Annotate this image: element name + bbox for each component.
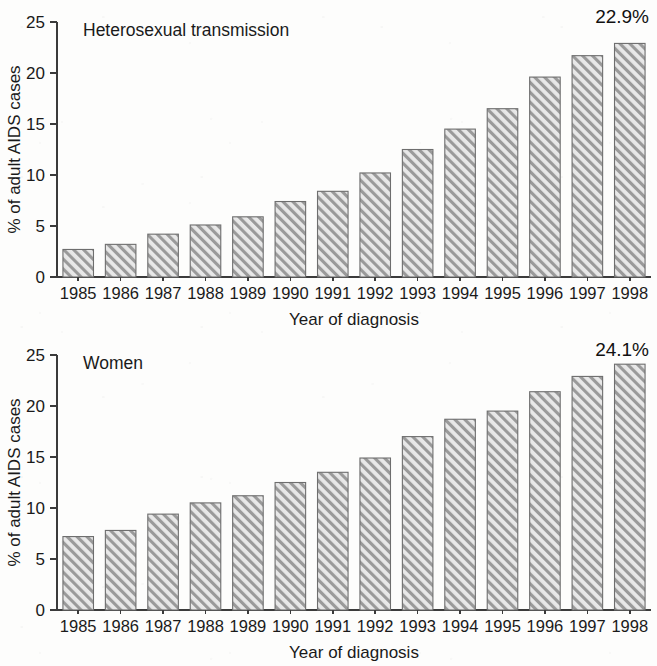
- x-tick-label: 1991: [314, 284, 351, 302]
- x-tick-label: 1997: [569, 284, 606, 302]
- bar-1985: 1985: 7.2%: [63, 537, 94, 610]
- bar-1991: 1991: 8.4%: [318, 191, 349, 277]
- y-tick-label: 0: [36, 268, 45, 287]
- bar-1988: 1988: 10.5%: [190, 503, 221, 610]
- bar-1997: 1997: 21.7%: [572, 56, 603, 277]
- x-tick-label: 1990: [272, 284, 309, 302]
- y-tick-label: 15: [26, 115, 45, 134]
- y-axis-title: % of adult AIDS cases: [5, 398, 24, 566]
- value-annotation: 24.1%: [595, 339, 649, 360]
- x-tick-label: 1995: [484, 617, 521, 635]
- y-tick-label: 10: [26, 166, 45, 185]
- bar-1997: 1997: 22.9%: [572, 376, 603, 610]
- x-tick-label: 1985: [60, 284, 97, 302]
- bars-heterosexual-transmission: 1985: 2.7%19851986: 3.2%19861987: 4.2%19…: [60, 43, 648, 302]
- bar-1985: 1985: 2.7%: [63, 249, 94, 277]
- x-tick-label: 1986: [102, 617, 139, 635]
- y-axis-title: % of adult AIDS cases: [5, 65, 24, 233]
- y-tick-label: 5: [36, 217, 45, 236]
- bar-1993: 1993: 12.5%: [402, 150, 433, 278]
- chart-panel-heterosexual-transmission: 0510152025% of adult AIDS cases1985: 2.7…: [0, 0, 657, 333]
- x-tick-label: 1985: [60, 617, 97, 635]
- x-axis-title: Year of diagnosis: [289, 310, 419, 329]
- x-tick-label: 1998: [611, 284, 648, 302]
- value-annotation: 22.9%: [595, 6, 649, 27]
- x-tick-label: 1987: [145, 284, 182, 302]
- bar-1986: 1986: 3.2%: [105, 244, 136, 277]
- bar-1989: 1989: 5.9%: [233, 217, 264, 277]
- chart-title: Women: [83, 353, 143, 373]
- chart-title: Heterosexual transmission: [83, 20, 289, 40]
- x-tick-label: 1987: [145, 617, 182, 635]
- bar-1996: 1996: 19.6%: [530, 77, 561, 277]
- y-tick-label: 15: [26, 448, 45, 467]
- bars-women: 1985: 7.2%19851986: 7.8%19861987: 9.4%19…: [60, 364, 648, 635]
- bar-1987: 1987: 4.2%: [148, 234, 179, 277]
- x-tick-label: 1993: [399, 284, 436, 302]
- bar-1998: 1998: 24.1%: [615, 364, 646, 610]
- y-tick-label: 25: [26, 13, 45, 32]
- x-tick-label: 1989: [230, 617, 267, 635]
- x-tick-label: 1992: [357, 617, 394, 635]
- y-tick-label: 5: [36, 550, 45, 569]
- x-tick-label: 1998: [611, 617, 648, 635]
- bar-1996: 1996: 21.4%: [530, 392, 561, 610]
- bar-chart-women: 0510152025% of adult AIDS cases1985: 7.2…: [0, 333, 657, 666]
- y-tick-label: 10: [26, 499, 45, 518]
- x-tick-label: 1986: [102, 284, 139, 302]
- x-tick-label: 1992: [357, 284, 394, 302]
- x-tick-label: 1994: [442, 284, 479, 302]
- bar-1993: 1993: 17%: [402, 437, 433, 610]
- x-tick-label: 1995: [484, 284, 521, 302]
- y-tick-label: 25: [26, 346, 45, 365]
- bar-1987: 1987: 9.4%: [148, 514, 179, 610]
- y-tick-label: 0: [36, 601, 45, 620]
- x-tick-label: 1993: [399, 617, 436, 635]
- x-axis-title: Year of diagnosis: [289, 643, 419, 662]
- bar-1995: 1995: 16.5%: [487, 109, 518, 277]
- bar-1992: 1992: 10.2%: [360, 173, 391, 277]
- bar-1988: 1988: 5.1%: [190, 225, 221, 277]
- bar-1991: 1991: 13.5%: [318, 472, 349, 610]
- x-tick-label: 1996: [527, 284, 564, 302]
- bar-1994: 1994: 18.7%: [445, 419, 476, 610]
- x-tick-label: 1991: [314, 617, 351, 635]
- x-tick-label: 1988: [187, 617, 224, 635]
- bar-1990: 1990: 7.4%: [275, 202, 306, 277]
- x-tick-label: 1996: [527, 617, 564, 635]
- x-tick-label: 1990: [272, 617, 309, 635]
- y-tick-label: 20: [26, 397, 45, 416]
- bar-1995: 1995: 19.5%: [487, 411, 518, 610]
- x-tick-label: 1989: [230, 284, 267, 302]
- bar-1998: 1998: 22.9%: [615, 43, 646, 277]
- chart-panel-women: 0510152025% of adult AIDS cases1985: 7.2…: [0, 333, 657, 666]
- bar-chart-heterosexual-transmission: 0510152025% of adult AIDS cases1985: 2.7…: [0, 0, 657, 333]
- x-tick-label: 1988: [187, 284, 224, 302]
- bar-1994: 1994: 14.5%: [445, 129, 476, 277]
- bar-1990: 1990: 12.5%: [275, 483, 306, 611]
- bar-1989: 1989: 11.2%: [233, 496, 264, 610]
- figure-page: 0510152025% of adult AIDS cases1985: 2.7…: [0, 0, 657, 666]
- x-tick-label: 1997: [569, 617, 606, 635]
- bar-1986: 1986: 7.8%: [105, 530, 136, 610]
- y-tick-label: 20: [26, 64, 45, 83]
- bar-1992: 1992: 14.9%: [360, 458, 391, 610]
- x-tick-label: 1994: [442, 617, 479, 635]
